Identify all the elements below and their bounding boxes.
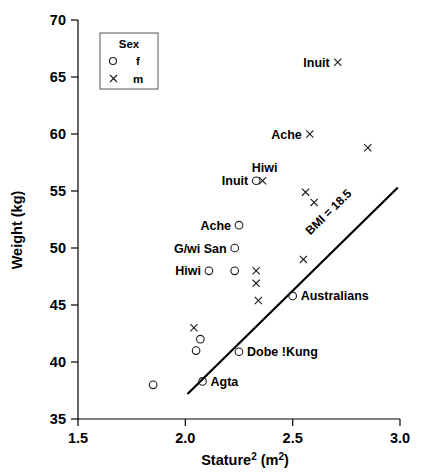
legend-label-f: f (136, 55, 140, 67)
y-tick-label: 40 (50, 354, 66, 370)
x-axis-title: Stature2 (m2) (201, 451, 289, 469)
data-point-label: Inuit (303, 56, 330, 70)
data-point-female (197, 335, 205, 343)
data-point-female (252, 177, 260, 185)
x-tick-label: 3.0 (390, 430, 410, 446)
data-point-male (300, 256, 307, 263)
x-axis-ticks: 1.52.02.53.0 (68, 419, 410, 446)
data-point-labels: InuitAcheG/wi SanHiwiAustraliansDobe !Ku… (174, 56, 369, 389)
data-markers (149, 59, 371, 389)
data-point-label: Dobe !Kung (247, 345, 318, 359)
data-point-male (302, 189, 309, 196)
data-point-male (190, 324, 197, 331)
data-point-female (205, 267, 213, 275)
data-point-female (235, 221, 243, 229)
y-tick-label: 55 (50, 183, 66, 199)
data-point-label: Australians (301, 289, 369, 303)
scatter-plot-figure: 3540455055606570 1.52.02.53.0 Weight (kg… (0, 0, 422, 474)
plot-canvas: 3540455055606570 1.52.02.53.0 Weight (kg… (0, 0, 422, 474)
data-point-female (231, 244, 239, 252)
y-tick-label: 60 (50, 126, 66, 142)
data-point-label: Ache (200, 219, 231, 233)
data-point-male (306, 130, 313, 137)
data-point-label: Inuit (222, 174, 249, 188)
legend-label-m: m (133, 73, 143, 85)
x-tick-label: 2.0 (175, 430, 195, 446)
y-axis-title: Weight (kg) (9, 190, 25, 269)
x-tick-label: 2.5 (283, 430, 303, 446)
y-tick-label: 65 (50, 69, 66, 85)
y-axis-ticks: 3540455055606570 (50, 12, 78, 427)
y-tick-label: 70 (50, 12, 66, 28)
legend: Sex f m (100, 33, 158, 89)
data-point-male (255, 297, 262, 304)
y-tick-label: 50 (50, 240, 66, 256)
data-point-female (235, 348, 243, 356)
data-point-male (364, 144, 371, 151)
data-point-male (253, 267, 260, 274)
bmi-line-label: BMI = 18.5 (303, 186, 355, 238)
legend-title: Sex (119, 38, 140, 50)
data-point-female (231, 267, 239, 275)
data-point-male (311, 199, 318, 206)
data-point-male (334, 59, 341, 66)
data-point-male (253, 280, 260, 287)
data-point-female (192, 347, 200, 355)
data-point-female (289, 292, 297, 300)
data-point-label: Ache (271, 128, 302, 142)
data-point-label: G/wi San (174, 242, 227, 256)
y-tick-label: 35 (50, 411, 66, 427)
x-tick-label: 1.5 (68, 430, 88, 446)
data-point-label: Hiwi (252, 161, 278, 175)
y-tick-label: 45 (50, 297, 66, 313)
data-point-label: Hiwi (175, 264, 201, 278)
data-point-female (149, 381, 157, 389)
data-point-label: Agta (211, 375, 240, 389)
